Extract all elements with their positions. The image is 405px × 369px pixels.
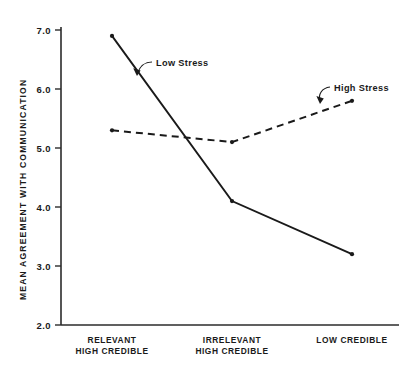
x-category-label-1-line2: HIGH CREDIBLE (75, 346, 148, 356)
data-point (110, 34, 114, 38)
data-point (230, 199, 234, 203)
x-category-label-1-line1: RELEVANT (88, 335, 137, 345)
y-tick-label-6: 6.0 (37, 84, 51, 95)
chart-figure: 7.0 6.0 5.0 4.0 3.0 2.0 MEAN AGREEMENT W… (0, 0, 405, 369)
x-category-label-3-line1: LOW CREDIBLE (316, 335, 387, 345)
data-point (110, 128, 114, 132)
y-tick-label-2: 2.0 (37, 320, 51, 331)
line-chart-canvas: 7.0 6.0 5.0 4.0 3.0 2.0 MEAN AGREEMENT W… (0, 0, 405, 369)
y-tick-label-7: 7.0 (37, 25, 51, 36)
y-tick-label-3: 3.0 (37, 261, 51, 272)
x-category-label-2-line2: HIGH CREDIBLE (195, 346, 268, 356)
y-tick-label-5: 5.0 (37, 143, 51, 154)
annotation-label-low-stress: Low Stress (156, 58, 209, 68)
x-category-label-2-line1: IRRELEVANT (203, 335, 262, 345)
y-axis-title: MEAN AGREEMENT WITH COMMUNICATION (18, 79, 28, 300)
data-point (350, 252, 354, 256)
data-point (230, 140, 234, 144)
annotation-label-high-stress: High Stress (334, 83, 389, 93)
data-point (350, 99, 354, 103)
y-tick-label-4: 4.0 (37, 202, 51, 213)
